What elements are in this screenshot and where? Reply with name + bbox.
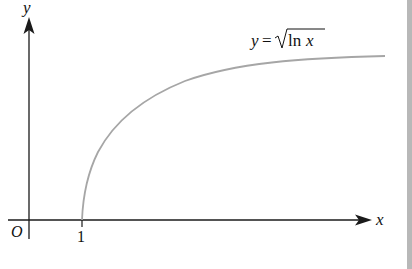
origin-label: O [11,223,23,240]
x-axis-label: x [375,210,384,229]
svg-text:y: y [249,31,259,50]
figure-frame: y x O 1 y = ln x [0,0,412,269]
x-tick-label-1: 1 [77,228,85,245]
y-axis-label: y [21,0,31,17]
y-axis [24,17,35,239]
svg-text:=: = [262,31,272,50]
svg-text:x: x [305,31,314,50]
page-edge-border [407,0,412,269]
graph-canvas: y x O 1 y = ln x [0,0,412,269]
equation-label: y = ln x [249,29,325,50]
curve-sqrt-ln-x [82,56,385,220]
x-axis [8,215,372,226]
svg-text:ln: ln [288,31,302,50]
